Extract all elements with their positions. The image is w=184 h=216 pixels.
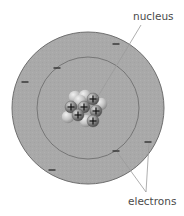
atom-diagram: nucleus electrons xyxy=(0,0,184,216)
electrons-label: electrons xyxy=(128,195,176,207)
nucleus-label: nucleus xyxy=(133,10,174,22)
proton xyxy=(72,109,84,121)
proton xyxy=(87,93,99,105)
proton xyxy=(87,115,99,127)
